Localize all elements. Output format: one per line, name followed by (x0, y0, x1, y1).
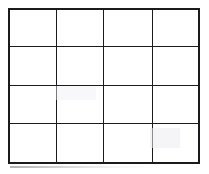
grid-cell-r3c4[interactable] (152, 86, 199, 123)
grid-cell-r4c1[interactable] (9, 123, 57, 163)
grid-cell-r4c4[interactable] (152, 123, 199, 163)
table-row (9, 123, 200, 163)
grid-cell-r3c1[interactable] (9, 86, 57, 123)
grid-cell-r2c2[interactable] (57, 47, 104, 86)
scan-smudge-artifact (10, 166, 160, 168)
table-row (9, 86, 200, 123)
grid-cell-r3c3[interactable] (104, 86, 152, 123)
grid-cell-r1c4[interactable] (152, 9, 199, 47)
grid-cell-r4c3[interactable] (104, 123, 152, 163)
grid-table-body (9, 9, 200, 164)
grid-cell-r4c2[interactable] (57, 123, 104, 163)
grid-cell-r2c4[interactable] (152, 47, 199, 86)
grid-table (8, 8, 200, 164)
grid-cell-r2c3[interactable] (104, 47, 152, 86)
grid-cell-r1c2[interactable] (57, 9, 104, 47)
table-row (9, 9, 200, 47)
grid-cell-r1c3[interactable] (104, 9, 152, 47)
grid-cell-r2c1[interactable] (9, 47, 57, 86)
grid-figure-canvas (0, 0, 209, 174)
table-row (9, 47, 200, 86)
grid-cell-r1c1[interactable] (9, 9, 57, 47)
grid-cell-r3c2[interactable] (57, 86, 104, 123)
